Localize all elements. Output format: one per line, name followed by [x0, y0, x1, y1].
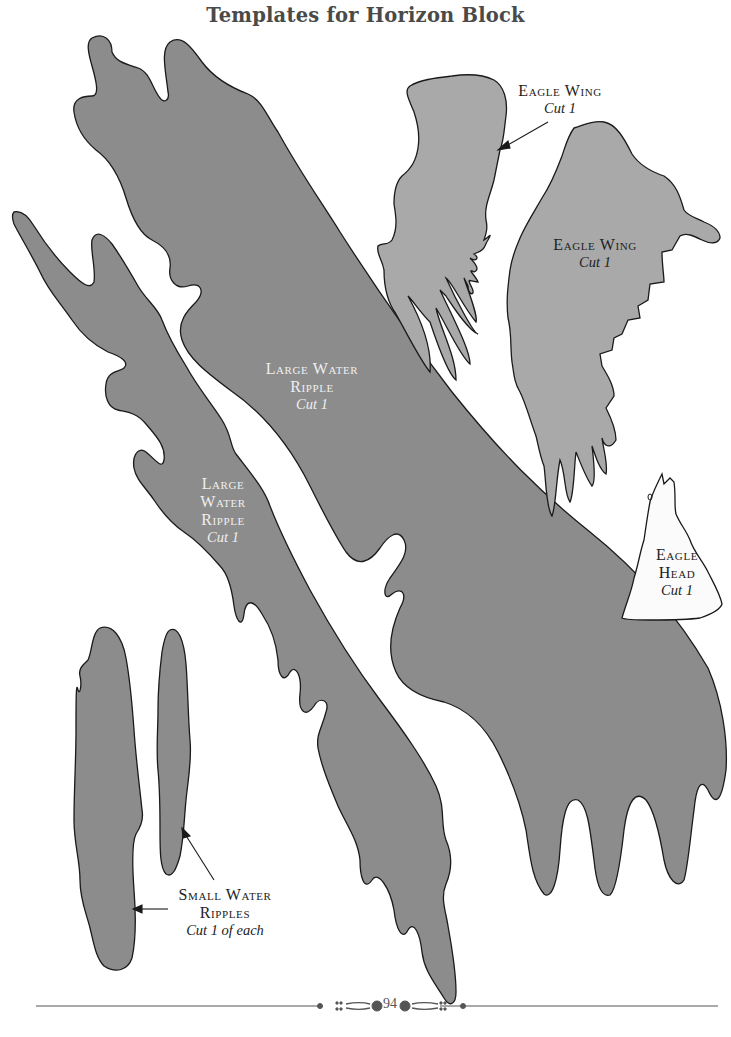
label-eagle-head-cut: Cut 1: [632, 582, 722, 598]
label-eagle-head-line1: Eagle: [632, 546, 722, 564]
small-water-ripple-2-shape: [157, 629, 190, 875]
label-swr-line1: Small Water: [150, 886, 300, 904]
eagle-wing-large-shape: [507, 122, 720, 516]
label-lwr-left-line2: Water: [180, 493, 266, 511]
label-eagle-wing-large-name: Eagle Wing: [530, 236, 660, 254]
label-large-water-ripple-left: Large Water Ripple Cut 1: [180, 475, 266, 545]
label-lwr-left-line1: Large: [180, 475, 266, 493]
label-small-water-ripples: Small Water Ripples Cut 1 of each: [150, 886, 300, 938]
arrow-small-ripple-narrow: [182, 828, 214, 880]
label-eagle-wing-small-name: Eagle Wing: [495, 82, 625, 100]
label-swr-cut: Cut 1 of each: [150, 922, 300, 938]
label-lwr-left-cut: Cut 1: [180, 529, 266, 545]
template-sheet: [0, 0, 731, 1037]
label-eagle-wing-small-cut: Cut 1: [495, 100, 625, 116]
label-eagle-wing-large-cut: Cut 1: [530, 254, 660, 270]
page-title: Templates for Horizon Block: [0, 4, 731, 27]
small-water-ripple-1-shape: [74, 627, 143, 970]
label-lwr-main-line1: Large Water: [242, 360, 382, 378]
label-eagle-head: Eagle Head Cut 1: [632, 546, 722, 598]
label-eagle-head-line2: Head: [632, 564, 722, 582]
page-number: 94: [383, 996, 397, 1012]
footer-ornament: [36, 1001, 718, 1011]
arrow-eagle-wing-small: [498, 122, 548, 150]
label-swr-line2: Ripples: [150, 904, 300, 922]
label-lwr-main-cut: Cut 1: [242, 396, 382, 412]
label-large-water-ripple-main: Large Water Ripple Cut 1: [242, 360, 382, 412]
label-lwr-left-line3: Ripple: [180, 511, 266, 529]
label-lwr-main-line2: Ripple: [242, 378, 382, 396]
label-eagle-wing-small: Eagle Wing Cut 1: [495, 82, 625, 116]
label-eagle-wing-large: Eagle Wing Cut 1: [530, 236, 660, 270]
